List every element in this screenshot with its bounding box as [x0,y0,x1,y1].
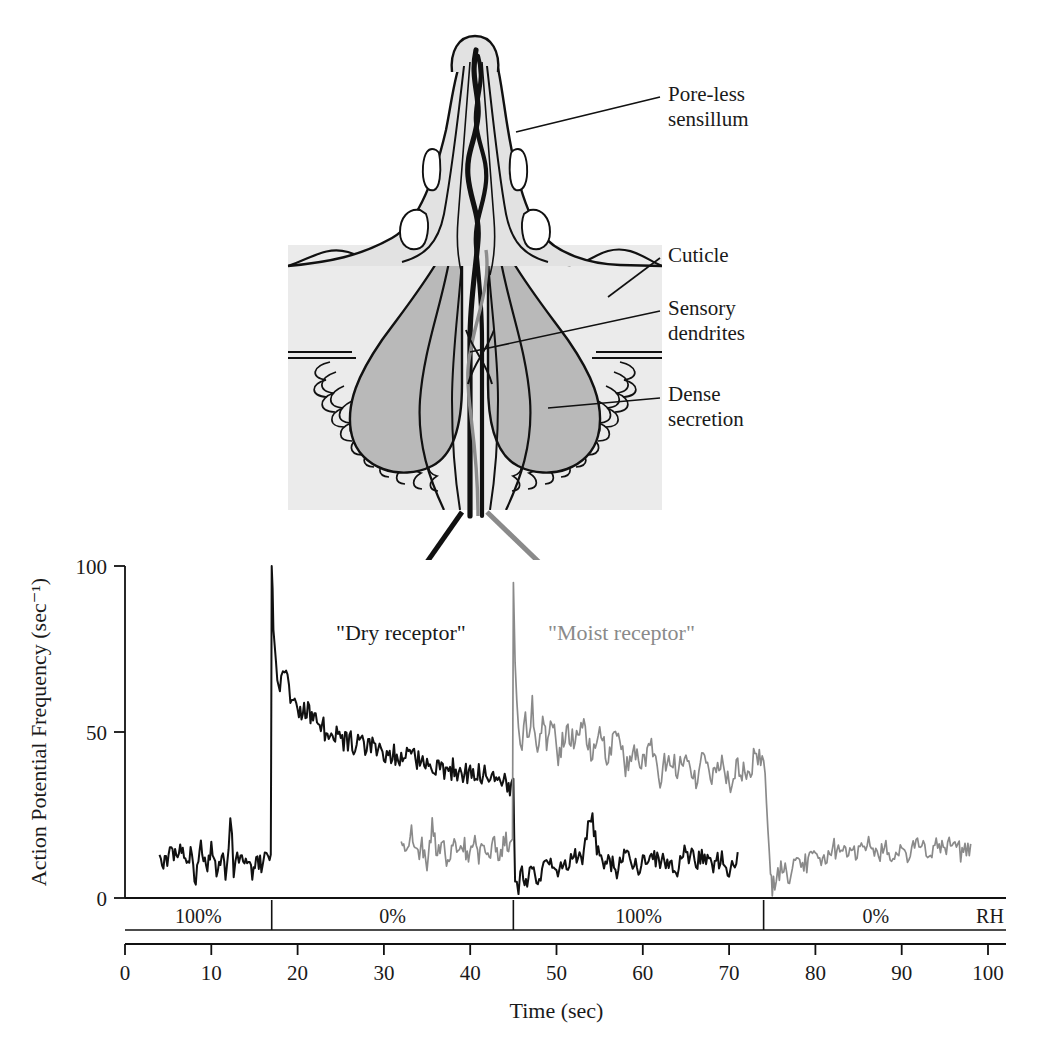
x-axis-tick-label: 90 [891,961,912,985]
x-axis-tick-label: 10 [201,961,222,985]
x-axis-tick-label: 0 [120,961,131,985]
x-axis-tick-label: 50 [546,961,567,985]
stimulus-bar-segment-label: 100% [615,905,662,927]
stimulus-bar-segment-label: 100% [175,905,222,927]
y-axis-tick-label: 0 [97,887,108,911]
x-axis-tick-label: 100 [972,961,1004,985]
chart-root: 050100Action Potential Frequency (sec⁻¹)… [26,555,1006,1023]
dry-receptor-arrow [399,512,462,560]
x-axis-tick-label: 80 [805,961,826,985]
wall-void-upper-right [510,149,527,190]
wall-void-lower-right [522,210,550,249]
label-dense-secretion: Dense secretion [668,382,744,432]
x-axis-tick-label: 60 [632,961,653,985]
annotation-dry-receptor: "Dry receptor" [336,620,466,646]
trace-dry-receptor [160,566,738,894]
label-pore-less-sensillum: Pore-less sensillum [668,82,749,132]
x-axis-tick-label: 40 [460,961,481,985]
moist-receptor-arrow [487,512,580,560]
y-axis-tick-label: 50 [86,721,107,745]
wall-void-lower-left [400,210,428,249]
wall-void-upper-left [423,149,440,190]
figure-container: Pore-less sensillum Cuticle Sensory dend… [0,0,1058,1038]
stimulus-bar-segment-label: 0% [862,905,889,927]
label-sensory-dendrites: Sensory dendrites [668,296,745,346]
x-axis-tick-label: 20 [287,961,308,985]
sensillum-diagram [0,0,1058,560]
x-axis-tick-label: 30 [373,961,394,985]
x-axis-title: Time (sec) [510,998,604,1023]
annotation-moist-receptor: "Moist receptor" [548,620,695,646]
leader-line-pore-less-sensillum [516,97,660,132]
stimulus-bar-unit-label: RH [976,905,1004,927]
label-cuticle: Cuticle [668,243,729,268]
y-axis-title: Action Potential Frequency (sec⁻¹) [26,578,51,886]
stimulus-bar-segment-label: 0% [379,905,406,927]
x-axis-tick-label: 70 [719,961,740,985]
